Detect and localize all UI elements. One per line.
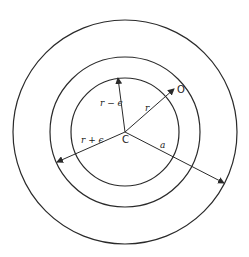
- r-plus-epsilon-label: r + ϵ: [81, 135, 104, 145]
- r-arrow: [125, 89, 174, 132]
- concentric-circles-diagram: r − ϵrr + ϵaCO: [0, 0, 249, 257]
- a-label: a: [160, 140, 165, 150]
- point-o-label: O: [177, 84, 185, 95]
- a-arrow: [125, 132, 224, 183]
- r-label: r: [145, 103, 150, 113]
- r-minus-epsilon-label: r − ϵ: [100, 98, 123, 108]
- center-label: C: [122, 134, 129, 145]
